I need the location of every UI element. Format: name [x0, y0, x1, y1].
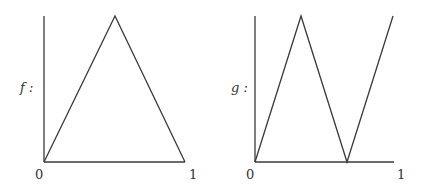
plot-f: f : 0 1	[19, 16, 197, 182]
diagram-canvas: f : 0 1 g : 0 1	[0, 0, 424, 186]
label-g: g :	[231, 80, 248, 95]
tick-0-f: 0	[35, 167, 43, 182]
curve-f	[44, 16, 185, 162]
tick-1-g: 1	[397, 167, 405, 182]
plot-g: g : 0 1	[231, 16, 405, 182]
tick-0-g: 0	[246, 167, 254, 182]
tick-1-f: 1	[189, 167, 197, 182]
curve-g	[255, 16, 393, 162]
label-f: f :	[19, 80, 33, 95]
